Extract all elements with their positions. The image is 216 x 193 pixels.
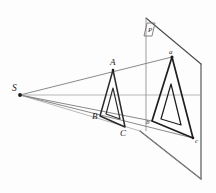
- label-a: A: [109, 57, 116, 67]
- label-p: P: [147, 26, 153, 34]
- figure-canvas: S A B C a b c P: [0, 0, 216, 193]
- label-s: S: [12, 83, 17, 93]
- label-b: B: [92, 111, 98, 121]
- vertex-dot-a: [112, 69, 115, 72]
- label-b-image: b: [146, 118, 150, 126]
- vertex-dot-c-image: [192, 137, 195, 140]
- object-triangle-abc: [100, 70, 125, 127]
- projection-figure: S A B C a b c P: [0, 0, 216, 193]
- vertex-dot-s: [18, 93, 22, 97]
- label-a-image: a: [169, 48, 173, 56]
- ray-s-to-b: [20, 95, 152, 121]
- label-c: C: [120, 128, 127, 138]
